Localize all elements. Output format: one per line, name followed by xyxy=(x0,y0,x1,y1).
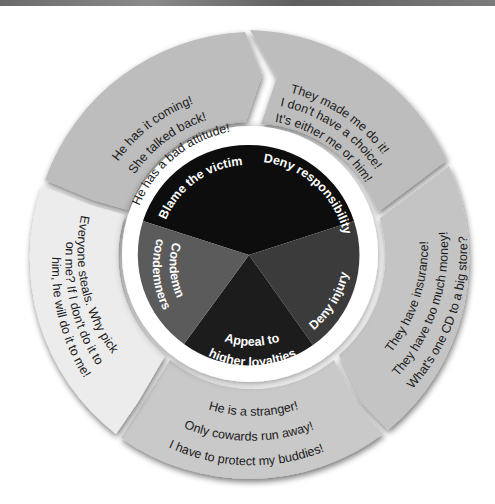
neutralization-techniques-diagram: Blame the victim Deny responsibility Den… xyxy=(0,0,495,504)
